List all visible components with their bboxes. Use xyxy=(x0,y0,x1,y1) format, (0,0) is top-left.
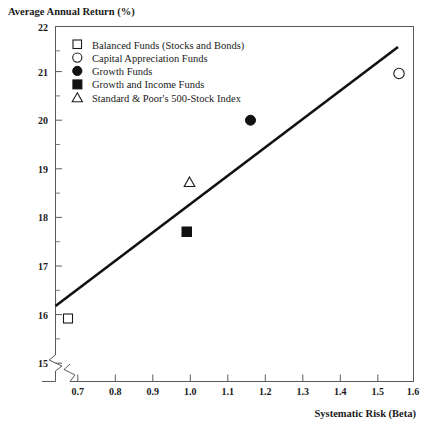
y-tick-label: 21 xyxy=(38,67,48,78)
x-tick-label: 1.1 xyxy=(222,386,235,397)
x-tick-label: 1.6 xyxy=(407,386,420,397)
x-tick-label: 1.0 xyxy=(184,386,197,397)
y-tick-label: 16 xyxy=(38,310,48,321)
y-tick-label: 20 xyxy=(38,115,48,126)
y-axis-tick-labels: 22 21 20 19 18 17 16 15 xyxy=(38,22,48,370)
legend-label-capital-appreciation-funds: Capital Appreciation Funds xyxy=(92,53,208,64)
x-axis-ticks xyxy=(78,375,414,382)
legend-label-growth-income-funds: Growth and Income Funds xyxy=(92,79,204,90)
legend-label-sp500-index: Standard & Poor's 500-Stock Index xyxy=(92,93,242,104)
legend-label-growth-funds: Growth Funds xyxy=(92,66,152,77)
data-point-sp500-index[interactable] xyxy=(184,177,195,187)
data-points xyxy=(64,68,405,323)
legend-marker-filled-circle xyxy=(73,66,82,75)
legend: Balanced Funds (Stocks and Bonds) Capita… xyxy=(72,40,245,104)
data-point-capital-appreciation-funds[interactable] xyxy=(394,68,404,78)
x-axis-title: Systematic Risk (Beta) xyxy=(315,408,417,420)
y-axis-ticks xyxy=(56,27,63,364)
x-tick-label: 0.9 xyxy=(147,386,160,397)
y-tick-label: 15 xyxy=(38,358,48,369)
legend-label-balanced-funds: Balanced Funds (Stocks and Bonds) xyxy=(92,40,245,52)
y-axis-title: Average Annual Return (%) xyxy=(8,6,135,18)
y-tick-label: 17 xyxy=(38,261,48,272)
y-tick-label: 22 xyxy=(38,22,48,33)
data-point-growth-funds[interactable] xyxy=(246,115,256,125)
legend-marker-open-circle xyxy=(73,53,82,62)
legend-marker-open-triangle xyxy=(72,93,82,102)
axis-break-marks xyxy=(49,355,75,382)
legend-marker-filled-square xyxy=(73,80,82,89)
x-tick-label: 1.2 xyxy=(259,386,272,397)
data-point-growth-income-funds[interactable] xyxy=(182,227,192,237)
y-tick-label: 19 xyxy=(38,164,48,175)
x-axis-break-icon xyxy=(64,364,75,382)
x-tick-label: 1.3 xyxy=(297,386,310,397)
data-point-balanced-funds[interactable] xyxy=(64,314,73,323)
x-tick-label: 0.7 xyxy=(72,386,85,397)
x-tick-label: 1.4 xyxy=(334,386,347,397)
x-axis-tick-labels: 0.7 0.8 0.9 1.0 1.1 1.2 1.3 1.4 1.5 1.6 xyxy=(72,386,420,397)
y-tick-label: 18 xyxy=(38,212,48,223)
x-tick-label: 1.5 xyxy=(372,386,385,397)
legend-marker-open-square xyxy=(73,40,82,49)
scatter-chart: Average Annual Return (%) xyxy=(0,0,430,439)
x-tick-label: 0.8 xyxy=(109,386,122,397)
